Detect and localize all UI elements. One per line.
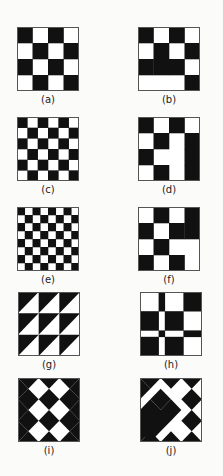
cell-black xyxy=(169,255,185,271)
cell-black xyxy=(17,117,28,128)
cell-black xyxy=(183,292,202,312)
cell-black xyxy=(159,330,166,337)
cell-black xyxy=(154,59,170,75)
cell-black xyxy=(56,231,64,239)
cell-black xyxy=(138,27,154,43)
figure-e: (e) xyxy=(17,207,79,271)
figure-label-j: (j) xyxy=(140,445,202,457)
cell-black xyxy=(33,223,41,231)
pattern-b xyxy=(138,27,200,91)
cell-black xyxy=(25,263,33,271)
pattern-f xyxy=(138,207,200,271)
cell-black xyxy=(140,311,159,331)
cell-black xyxy=(169,117,185,133)
figure-b: (b) xyxy=(138,27,200,91)
figure-label-g: (g) xyxy=(18,359,80,371)
figure-j: (j) xyxy=(140,378,202,442)
cell-black xyxy=(25,231,33,239)
cell-black xyxy=(58,138,69,149)
cell-black xyxy=(69,149,79,160)
cell-black xyxy=(17,255,25,263)
pattern-d xyxy=(138,117,200,181)
cell-black xyxy=(185,43,201,59)
cell-black xyxy=(138,223,154,239)
figure-d: (d) xyxy=(138,117,200,181)
cell-black xyxy=(48,59,64,75)
cell-black xyxy=(138,255,154,271)
cell-black xyxy=(64,207,72,215)
cell-black xyxy=(185,133,201,149)
cell-black xyxy=(64,223,72,231)
cell-black xyxy=(169,27,185,43)
cell-black xyxy=(165,337,184,356)
cell-black xyxy=(138,59,154,75)
cell-black xyxy=(27,149,38,160)
cell-black xyxy=(185,165,201,181)
figure-label-i: (i) xyxy=(18,445,80,457)
cell-black xyxy=(69,128,79,139)
cell-black xyxy=(154,43,170,59)
cell-black xyxy=(17,207,25,215)
cell-black xyxy=(185,75,201,91)
cell-black xyxy=(138,149,154,165)
cell-black xyxy=(138,117,154,133)
cell-black xyxy=(169,59,185,75)
figure-label-b: (b) xyxy=(138,94,200,106)
cell-black xyxy=(25,215,33,223)
cell-black xyxy=(69,170,79,181)
cell-black xyxy=(40,263,48,271)
cell-black xyxy=(33,75,49,91)
figure-a: (a) xyxy=(17,27,79,91)
cell-black xyxy=(17,27,33,43)
cell-black xyxy=(71,231,79,239)
cell-black xyxy=(71,247,79,255)
cell-black xyxy=(38,138,49,149)
cell-black xyxy=(154,165,170,181)
pattern-g xyxy=(18,292,80,356)
cell-black xyxy=(183,330,202,337)
cell-black xyxy=(48,239,56,247)
cell-black xyxy=(159,292,166,312)
figure-i: (i) xyxy=(18,378,80,442)
pattern-h xyxy=(140,292,202,356)
figure-label-h: (h) xyxy=(140,359,202,371)
cell-black xyxy=(56,263,64,271)
cell-black xyxy=(154,239,170,255)
cell-black xyxy=(64,43,80,59)
cell-black xyxy=(64,75,80,91)
cell-black xyxy=(48,27,64,43)
pattern-a xyxy=(17,27,79,91)
cell-black xyxy=(40,215,48,223)
cell-black xyxy=(56,247,64,255)
cell-black xyxy=(185,223,201,239)
figure-c: (c) xyxy=(17,117,79,181)
cell-black xyxy=(17,138,28,149)
cell-black xyxy=(165,311,184,331)
cell-black xyxy=(33,207,41,215)
cell-black xyxy=(154,207,170,223)
figure-label-d: (d) xyxy=(138,184,200,196)
figure-f: (f) xyxy=(138,207,200,271)
cell-black xyxy=(48,128,59,139)
cell-black xyxy=(17,239,25,247)
cell-black xyxy=(40,247,48,255)
cell-black xyxy=(169,223,185,239)
cell-black xyxy=(33,43,49,59)
cell-black xyxy=(27,128,38,139)
pattern-j xyxy=(140,378,202,442)
pattern-c xyxy=(17,117,79,181)
cell-black xyxy=(40,231,48,239)
cell-black xyxy=(48,223,56,231)
cell-black xyxy=(17,59,33,75)
cell-black xyxy=(185,207,201,223)
figure-label-f: (f) xyxy=(138,274,200,286)
cell-black xyxy=(17,160,28,171)
cell-black xyxy=(38,117,49,128)
cell-black xyxy=(154,133,170,149)
cell-black xyxy=(38,160,49,171)
figure-h: (h) xyxy=(140,292,202,356)
cell-black xyxy=(71,263,79,271)
cell-black xyxy=(71,215,79,223)
cell-black xyxy=(48,149,59,160)
cell-black xyxy=(64,239,72,247)
